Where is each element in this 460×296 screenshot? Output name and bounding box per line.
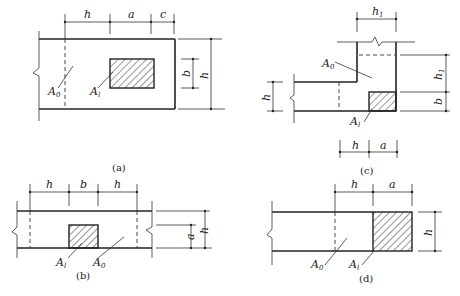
- bottom-dimension-line: h a: [339, 139, 398, 158]
- dim-label-h: h: [198, 72, 211, 79]
- break-line-icon: [12, 201, 17, 258]
- dim-label-b: b: [180, 70, 193, 77]
- figure-b: h b h Al A0 a h (b): [12, 178, 212, 281]
- break-line-icon: [337, 37, 415, 46]
- dim-label-h: h: [114, 178, 121, 191]
- break-line-icon: [146, 201, 152, 258]
- dim-label-h: h: [351, 178, 358, 191]
- caption-d: (d): [359, 273, 373, 284]
- figure-a: h a c A0 Al b h (a: [33, 8, 225, 173]
- break-line-icon: [267, 201, 272, 265]
- label-A0: A0: [92, 256, 106, 270]
- local-area-Al: [369, 92, 396, 111]
- dim-label-a: a: [389, 178, 396, 191]
- top-dimension-line: h1: [356, 5, 397, 32]
- dim-label-a: a: [128, 8, 135, 21]
- right-dimension-lines: a h: [156, 210, 212, 249]
- dim-label-a: a: [184, 233, 197, 240]
- local-area-Al: [69, 225, 98, 248]
- caption-a: (a): [112, 162, 126, 173]
- figure-c: h1 A0 Al h1 b: [260, 5, 450, 176]
- dim-label-h: h: [260, 94, 273, 101]
- local-area-Al: [373, 212, 412, 251]
- dim-label-b: b: [432, 98, 445, 105]
- dim-label-h: h: [46, 178, 53, 191]
- figure-d: h a A0 Al h (d): [267, 178, 442, 284]
- local-compression-diagram: h a c A0 Al b h (a: [0, 0, 460, 296]
- dim-label-h: h: [198, 227, 211, 234]
- break-line-icon: [290, 74, 294, 123]
- caption-b: (b): [76, 270, 90, 281]
- right-dimension-line: h: [418, 211, 442, 252]
- dim-label-h: h: [352, 139, 359, 152]
- dim-label-h: h: [422, 229, 435, 236]
- dim-label-h1: h1: [432, 68, 446, 80]
- label-A0: A0: [321, 57, 335, 71]
- caption-c: (c): [360, 165, 374, 176]
- member-outline: [267, 201, 373, 265]
- top-dimension-line: h b h: [29, 178, 138, 211]
- right-dimension-lines: b h: [178, 38, 225, 110]
- label-Al: Al: [55, 256, 66, 270]
- right-dimension-lines: h1 b: [400, 54, 450, 112]
- dim-label-b: b: [80, 178, 87, 191]
- dim-label-a: a: [380, 139, 387, 152]
- label-Al: Al: [349, 115, 360, 129]
- top-dimension-line: h a: [334, 178, 413, 212]
- dim-label-c: c: [160, 8, 166, 21]
- local-area-Al: [110, 59, 154, 88]
- dim-label-h: h: [84, 8, 91, 21]
- label-A0: A0: [310, 258, 324, 272]
- top-dimension-line: h a c: [64, 8, 175, 39]
- dim-label-h1: h1: [372, 5, 384, 19]
- label-Al: Al: [348, 258, 359, 272]
- left-dimension-line: h: [260, 81, 283, 112]
- break-line-icon: [33, 31, 39, 121]
